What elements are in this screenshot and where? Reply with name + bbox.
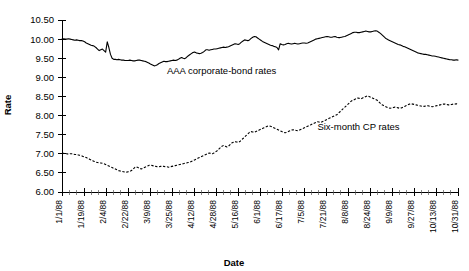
- y-axis-tick-labels: 10.5010.009.509.008.508.007.507.006.506.…: [30, 14, 54, 197]
- x-axis-tick-label: 10/31/88: [450, 200, 460, 233]
- series-line-aaa-corporate-bond: [62, 31, 458, 66]
- series-label-six-month-cp: Six-month CP rates: [317, 121, 399, 132]
- x-axis-tick-labels: 1/1/881/19/882/4/882/22/883/9/883/25/884…: [54, 200, 460, 233]
- x-axis-tick-label: 6/17/88: [274, 200, 284, 229]
- chart-container: 10.5010.009.509.008.508.007.507.006.506.…: [0, 0, 469, 271]
- x-axis-tick-label: 9/27/88: [406, 200, 416, 229]
- x-axis-tick-label: 1/19/88: [76, 200, 86, 229]
- y-axis-tick-label: 8.50: [36, 91, 55, 102]
- x-axis-tick-label: 3/9/88: [142, 200, 152, 224]
- x-axis-tick-label: 2/4/88: [98, 200, 108, 224]
- x-axis-tick-label: 8/24/88: [362, 200, 372, 229]
- x-axis-tick-label: 4/28/88: [208, 200, 218, 229]
- y-axis-tick-label: 7.00: [36, 148, 55, 159]
- y-axis-tick-label: 8.00: [36, 110, 55, 121]
- y-axis-title: Rate: [2, 95, 13, 116]
- series-line-six-month-cp: [62, 96, 458, 172]
- y-axis-tick-label: 10.00: [30, 34, 54, 45]
- x-axis-tick-label: 4/12/88: [186, 200, 196, 229]
- x-axis-title: Date: [224, 257, 245, 268]
- x-axis-tick-label: 7/21/88: [318, 200, 328, 229]
- y-axis-tick-label: 6.00: [36, 186, 55, 197]
- y-axis-tick-label: 10.50: [30, 14, 54, 25]
- rates-line-chart: 10.5010.009.509.008.508.007.507.006.506.…: [0, 0, 469, 271]
- y-axis-tick-label: 9.50: [36, 53, 55, 64]
- x-axis-tick-label: 5/16/88: [230, 200, 240, 229]
- x-axis-tick-label: 2/22/88: [120, 200, 130, 229]
- x-axis-tick-label: 8/8/88: [340, 200, 350, 224]
- x-axis-tick-label: 10/13/88: [428, 200, 438, 233]
- x-axis-tick-label: 6/1/88: [252, 200, 262, 224]
- series-label-aaa-corporate-bond: AAA corporate-bond rates: [167, 65, 277, 76]
- x-axis-tick-label: 1/1/88: [54, 200, 64, 224]
- y-axis-tick-label: 6.50: [36, 167, 55, 178]
- x-axis-tick-label: 9/9/88: [384, 200, 394, 224]
- y-axis-tick-label: 7.50: [36, 129, 55, 140]
- x-axis-tick-label: 3/25/88: [164, 200, 174, 229]
- y-axis-tick-label: 9.00: [36, 72, 55, 83]
- x-axis-tick-label: 7/5/88: [296, 200, 306, 224]
